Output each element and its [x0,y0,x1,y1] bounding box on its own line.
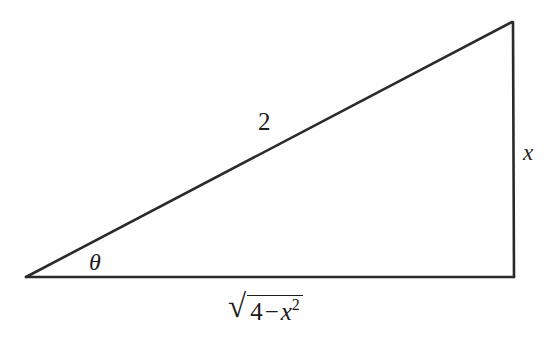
radicand-operator: − [263,298,281,325]
radicand-number: 4 [250,298,263,325]
radical-sign-icon: √ [228,293,246,320]
hypotenuse-label: 2 [258,109,271,134]
base-leg-label: √ 4−x2 [228,292,303,321]
radicand-group: 4−x2 [247,295,303,324]
vertical-leg-label: x [523,141,533,164]
radicand-variable: x [281,298,292,325]
angle-theta-label: θ [89,250,101,274]
hypotenuse-line [26,22,512,277]
vertical-leg-line [513,22,514,277]
radicand-exponent: 2 [292,296,300,313]
triangle-figure: 2 θ x √ 4−x2 [0,0,548,349]
